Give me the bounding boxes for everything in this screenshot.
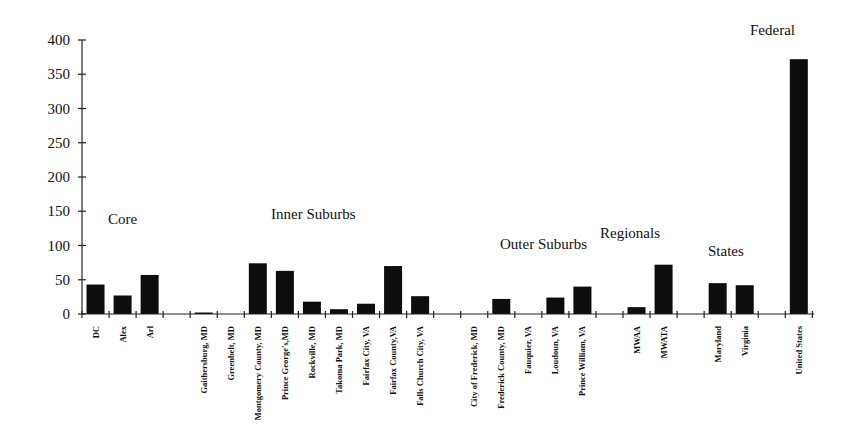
x-tick-label: Virginia bbox=[740, 325, 750, 356]
x-tick-label: MWATA bbox=[659, 325, 669, 358]
x-tick-label: Rockville, MD bbox=[307, 326, 317, 378]
x-tick-label: Falls Church City, VA bbox=[415, 325, 425, 406]
bar-chart: 050100150200250300350400 DCAlexArlGaithe… bbox=[0, 0, 845, 445]
x-tick-label: Prince William, VA bbox=[577, 325, 587, 396]
x-tick-label: MWAA bbox=[632, 325, 642, 354]
y-tick-label: 250 bbox=[48, 135, 71, 151]
y-tick-label: 0 bbox=[63, 306, 71, 322]
group-label-federal: Federal bbox=[750, 22, 795, 38]
y-tick-label: 50 bbox=[55, 272, 70, 288]
bar bbox=[114, 296, 132, 314]
x-tick-label: Prince George's,MD bbox=[280, 326, 290, 400]
y-tick-label: 400 bbox=[48, 32, 71, 48]
bars bbox=[87, 59, 808, 314]
bar bbox=[736, 285, 754, 314]
bar bbox=[709, 283, 727, 314]
x-tick-label: Montgomery County, MD bbox=[253, 326, 263, 420]
x-tick-label: Gaithersburg, MD bbox=[199, 326, 209, 394]
y-tick-label: 100 bbox=[48, 238, 71, 254]
bar bbox=[249, 263, 267, 314]
x-tick-labels: DCAlexArlGaithersburg, MDGreenbelt, MDMo… bbox=[91, 325, 804, 420]
x-tick-label: Loudoun, VA bbox=[550, 325, 560, 374]
x-tick-label: Maryland bbox=[713, 326, 723, 363]
bar bbox=[628, 307, 646, 314]
x-tick-label: Greenbelt, MD bbox=[226, 326, 236, 381]
bar bbox=[330, 309, 348, 314]
x-tick-label: Frederick County, MD bbox=[496, 326, 506, 409]
x-tick-label: Fauquier, VA bbox=[523, 325, 533, 374]
y-tick-label: 350 bbox=[48, 66, 71, 82]
bar bbox=[790, 59, 808, 314]
group-label-core: Core bbox=[108, 211, 138, 227]
group-label-outer-suburbs: Outer Suburbs bbox=[500, 236, 587, 252]
y-axis: 050100150200250300350400 bbox=[48, 32, 87, 322]
x-tick-label: Alex bbox=[118, 325, 128, 342]
bar bbox=[573, 287, 591, 314]
x-tick-label: Arl bbox=[145, 325, 155, 338]
bar bbox=[655, 265, 673, 314]
bar bbox=[357, 304, 375, 314]
y-tick-label: 200 bbox=[48, 169, 71, 185]
bar bbox=[276, 271, 294, 314]
bar bbox=[384, 266, 402, 314]
group-label-regionals: Regionals bbox=[600, 225, 660, 241]
x-axis bbox=[82, 311, 814, 318]
bar bbox=[546, 298, 564, 314]
x-tick-label: Fairfax County,VA bbox=[388, 325, 398, 395]
bar bbox=[492, 299, 510, 314]
x-tick-label: Takoma Park, MD bbox=[334, 326, 344, 394]
bar bbox=[411, 296, 429, 314]
x-tick-label: United States bbox=[794, 325, 804, 374]
bar bbox=[141, 275, 159, 314]
x-tick-label: DC bbox=[91, 326, 101, 338]
y-tick-label: 150 bbox=[48, 203, 71, 219]
y-tick-label: 300 bbox=[48, 101, 71, 117]
group-label-states: States bbox=[708, 243, 744, 259]
group-label-inner-suburbs: Inner Suburbs bbox=[271, 206, 356, 222]
x-tick-label: Fairfax City, VA bbox=[361, 325, 371, 385]
bar bbox=[87, 285, 105, 314]
bar bbox=[303, 302, 321, 314]
x-tick-label: City of Frederick, MD bbox=[469, 326, 479, 407]
